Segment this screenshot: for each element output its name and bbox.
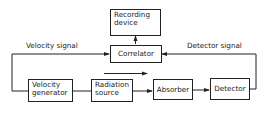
detector-signal-label: Detector signal [187,42,242,50]
velocity-generator-line2: generator [32,89,69,97]
detector-label: Detector [214,85,245,93]
absorber-label: Absorber [157,86,190,94]
detector-box: Detector [210,78,250,100]
correlator-box: Correlator [110,45,162,63]
correlator-label: Correlator [118,50,154,58]
velocity-signal-label: Velocity signal [26,42,78,50]
velocity-generator-box: Velocity generator [28,79,73,102]
absorber-box: Absorber [153,79,193,100]
radiation-source-box: Radiation source [91,79,133,102]
recording-device-box: Recording device [110,9,161,36]
recording-device-line2: device [114,19,157,27]
radiation-source-line2: source [95,89,129,97]
